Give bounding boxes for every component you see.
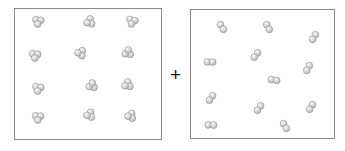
left-reactant-box bbox=[14, 8, 162, 140]
right-reactant-box bbox=[190, 9, 335, 139]
particle-diagram-figure: + bbox=[0, 0, 345, 151]
plus-operator: + bbox=[170, 65, 181, 84]
